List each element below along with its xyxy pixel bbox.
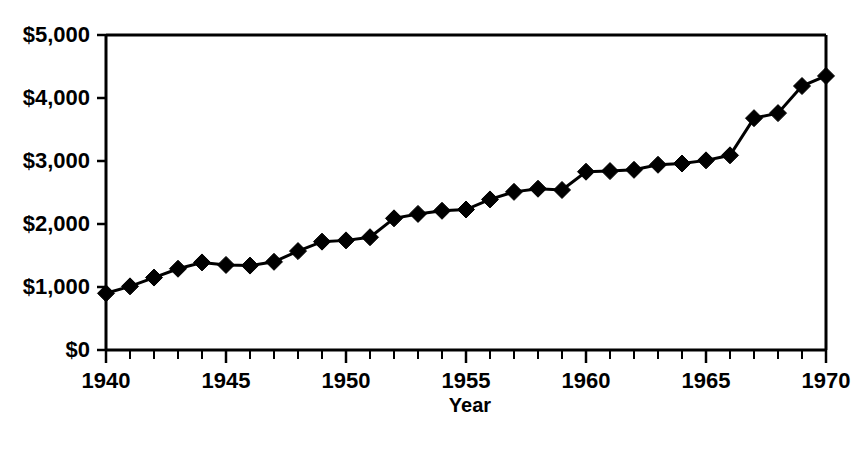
y-tick-label: $4,000: [23, 85, 90, 110]
y-tick-label: $3,000: [23, 148, 90, 173]
y-tick-label: $5,000: [23, 22, 90, 47]
x-tick-label: 1945: [202, 368, 251, 393]
x-tick-label: 1950: [322, 368, 371, 393]
chart-page: $0$1,000$2,000$3,000$4,000$5,000 1940194…: [0, 0, 855, 451]
x-tick-label: 1940: [82, 368, 131, 393]
y-tick-label: $0: [66, 337, 90, 362]
y-tick-label: $2,000: [23, 211, 90, 236]
x-tick-label: 1970: [802, 368, 851, 393]
x-tick-label: 1965: [682, 368, 731, 393]
x-tick-label: 1960: [562, 368, 611, 393]
y-tick-label: $1,000: [23, 274, 90, 299]
x-tick-label: 1955: [442, 368, 491, 393]
x-axis-title: Year: [449, 394, 491, 416]
line-chart: $0$1,000$2,000$3,000$4,000$5,000 1940194…: [0, 0, 855, 451]
